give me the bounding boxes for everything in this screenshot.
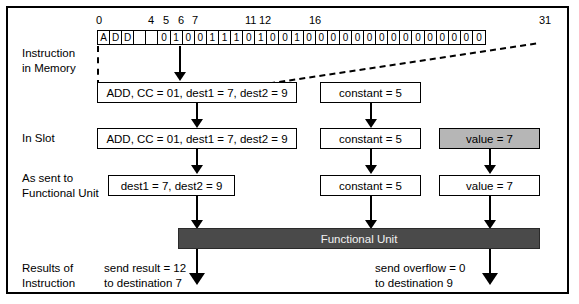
instruction-bit-cell: 0	[412, 31, 424, 44]
as-sent-constant-box: constant = 5	[320, 175, 421, 196]
instruction-bit-cell: 0	[316, 31, 328, 44]
instruction-bit-cell: 1	[292, 31, 304, 44]
instruction-word-bitstrip: ADD010011101001000000000000000	[97, 30, 486, 45]
row-label-results-line1: Results of	[22, 262, 73, 275]
instruction-bit-cell: 0	[437, 31, 449, 44]
connector-dest-to-fu-line	[196, 196, 198, 222]
instruction-bit-cell: 0	[364, 31, 376, 44]
ruler-tick-0: 0	[96, 14, 102, 27]
overflow-output-head	[482, 273, 498, 285]
result-output-head	[189, 273, 205, 285]
overflow-text-line2: to destination 9	[375, 277, 453, 290]
instruction-bit-cell: 1	[219, 31, 231, 44]
instruction-bit-cell	[134, 31, 146, 44]
instruction-bit-cell: 1	[231, 31, 243, 44]
ruler-tick-5: 5	[163, 14, 169, 27]
ruler-tick-6: 6	[178, 14, 184, 27]
as-sent-dest-box: dest1 = 7, dest2 = 9	[108, 175, 235, 196]
instruction-bit-cell: 0	[340, 31, 352, 44]
instruction-bit-cell: 0	[195, 31, 207, 44]
instruction-bit-cell: 0	[328, 31, 340, 44]
row-label-instruction-in-memory-line1: Instruction	[22, 47, 75, 60]
result-text-line1: send result = 12	[104, 262, 186, 275]
result-text-line2: to destination 7	[104, 277, 182, 290]
decoded-opcode-box: ADD, CC = 01, dest1 = 7, dest2 = 9	[97, 82, 297, 103]
instruction-bit-cell: 0	[388, 31, 400, 44]
row-label-as-sent-line2: Functional Unit	[22, 187, 99, 200]
row-label-results-line2: Instruction	[22, 277, 75, 290]
connector-constant-to-fu-line	[370, 196, 372, 222]
ruler-tick-12: 12	[259, 14, 271, 27]
connector-slot-opcode-head	[191, 165, 203, 174]
in-slot-value-box: value = 7	[439, 128, 540, 149]
instruction-bit-cell: 0	[352, 31, 364, 44]
connector-slot-constant-head	[365, 165, 377, 174]
connector-constant-to-slot-head	[365, 119, 377, 128]
ruler-tick-7: 7	[192, 14, 198, 27]
in-slot-constant-box: constant = 5	[320, 128, 421, 149]
instruction-bit-cell: 0	[243, 31, 255, 44]
figure-canvas: 0 4 5 6 7 11 12 16 31 ADD010011101001000…	[0, 0, 579, 304]
instruction-bit-cell: 0	[183, 31, 195, 44]
ruler-tick-31: 31	[539, 14, 551, 27]
instruction-bit-cell: 0	[376, 31, 388, 44]
instruction-bit-cell: 1	[171, 31, 183, 44]
instruction-bit-cell: D	[110, 31, 122, 44]
ruler-tick-4: 4	[148, 14, 154, 27]
row-label-instruction-in-memory-line2: in Memory	[22, 62, 76, 75]
instruction-bit-cell: A	[98, 31, 110, 44]
instruction-bit-cell: 0	[461, 31, 473, 44]
bit6-arrow-head	[174, 72, 186, 81]
ruler-tick-16: 16	[309, 14, 321, 27]
bit6-arrow-line	[179, 46, 181, 74]
instruction-bit-cell: 0	[304, 31, 316, 44]
overflow-text-line1: send overflow = 0	[375, 262, 465, 275]
instruction-bit-cell: 0	[279, 31, 291, 44]
connector-opcode-to-slot-head	[191, 119, 203, 128]
instruction-bit-cell: 0	[473, 31, 485, 44]
as-sent-value-box: value = 7	[439, 175, 540, 196]
dashed-connector-left	[97, 46, 99, 86]
instruction-bit-cell: 0	[267, 31, 279, 44]
ruler-tick-11: 11	[245, 14, 256, 27]
in-slot-opcode-box: ADD, CC = 01, dest1 = 7, dest2 = 9	[97, 128, 297, 149]
decoded-constant-box: constant = 5	[320, 82, 421, 103]
instruction-bit-cell: 1	[207, 31, 219, 44]
instruction-bit-cell: 1	[255, 31, 267, 44]
instruction-bit-cell	[146, 31, 158, 44]
row-label-in-slot: In Slot	[22, 132, 55, 145]
instruction-bit-cell: 0	[425, 31, 437, 44]
connector-slot-value-head	[484, 165, 496, 174]
instruction-bit-cell: 0	[400, 31, 412, 44]
instruction-bit-cell: D	[122, 31, 134, 44]
connector-value-to-fu-line	[489, 196, 491, 222]
instruction-bit-cell: 0	[158, 31, 170, 44]
functional-unit-bar: Functional Unit	[178, 228, 540, 249]
instruction-bit-cell: 0	[449, 31, 461, 44]
row-label-as-sent-line1: As sent to	[22, 172, 73, 185]
